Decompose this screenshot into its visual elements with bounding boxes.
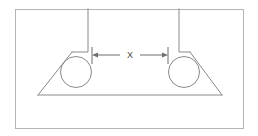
dimension-label-x: X bbox=[127, 50, 133, 60]
drawing-canvas: X bbox=[0, 0, 258, 136]
technical-drawing-figure: X bbox=[0, 0, 258, 136]
page-background bbox=[0, 0, 258, 136]
